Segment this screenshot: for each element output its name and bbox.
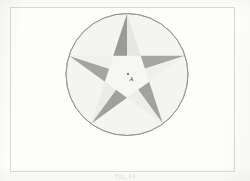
figure-caption: Fig. 14 bbox=[0, 172, 250, 180]
pentagram-diagram bbox=[0, 0, 250, 181]
scanned-page: A Fig. 14 bbox=[0, 0, 250, 181]
